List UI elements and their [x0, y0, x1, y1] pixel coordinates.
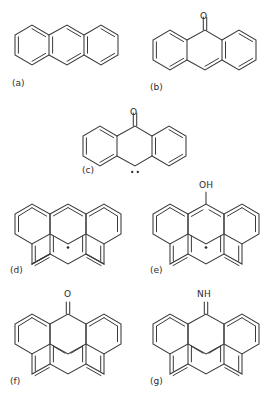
panel-g-structure: [146, 302, 266, 380]
panel-d-structure: [8, 192, 128, 270]
hydroxyl-atom-label-e: OH: [199, 180, 213, 190]
radical-dot-icon: [67, 246, 70, 249]
radical-dot-icon: [205, 246, 208, 249]
panel-a-label: (a): [12, 78, 25, 88]
anthracene-skeleton: [6, 14, 128, 76]
panel-f-structure: [8, 302, 128, 380]
oxygen-atom-label-b: O: [200, 11, 207, 21]
pah-imine-skeleton: [146, 302, 266, 380]
panel-b-structure: [144, 24, 266, 80]
pah-hydroxyl-radical-skeleton: [146, 192, 266, 270]
pah-ketone-skeleton: [8, 302, 128, 380]
panel-d-label: (d): [10, 265, 23, 275]
oxygen-atom-label-c: O: [130, 107, 137, 117]
pah-radical-skeleton: [8, 192, 128, 270]
oxygen-atom-label-f: O: [64, 289, 71, 299]
panel-e-structure: [146, 192, 266, 270]
panel-f-label: (f): [10, 376, 20, 386]
anthrone-skeleton: [144, 24, 266, 80]
panel-g-label: (g): [150, 376, 163, 386]
imine-atom-label-g: NH: [197, 289, 211, 299]
panel-c-label: (c): [82, 165, 94, 175]
panel-a-structure: [6, 14, 128, 76]
carbene-dots-icon: [131, 171, 139, 173]
panel-e-label: (e): [150, 265, 163, 275]
panel-b-label: (b): [150, 82, 163, 92]
